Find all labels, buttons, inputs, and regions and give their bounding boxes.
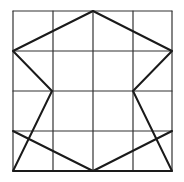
grid-lines [13,11,172,171]
grid-diagram [0,0,184,182]
